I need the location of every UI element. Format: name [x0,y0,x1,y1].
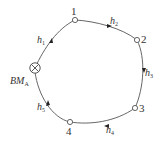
segment-h5-label: h5 [37,101,45,113]
segment-h3-label: h3 [145,67,153,79]
benchmark-icon [30,63,40,73]
point-3-label: 3 [139,102,145,114]
segment-h4-label: h4 [106,124,114,136]
point-3-marker [132,105,137,110]
point-1-label: 1 [71,5,77,17]
point-2-marker [134,37,139,42]
point-1-marker [72,17,77,22]
point-4-marker [67,119,72,124]
segment-h1-label: h1 [37,34,45,46]
leveling-route-line [35,20,143,123]
benchmark-label: BMA [10,75,29,87]
point-4-label: 4 [66,125,72,137]
point-2-label: 2 [141,33,147,45]
leveling-loop-diagram: 1 2 3 4 BMA h1 h2 h3 h4 h5 [0,0,163,149]
segment-h2-label: h2 [110,15,118,27]
